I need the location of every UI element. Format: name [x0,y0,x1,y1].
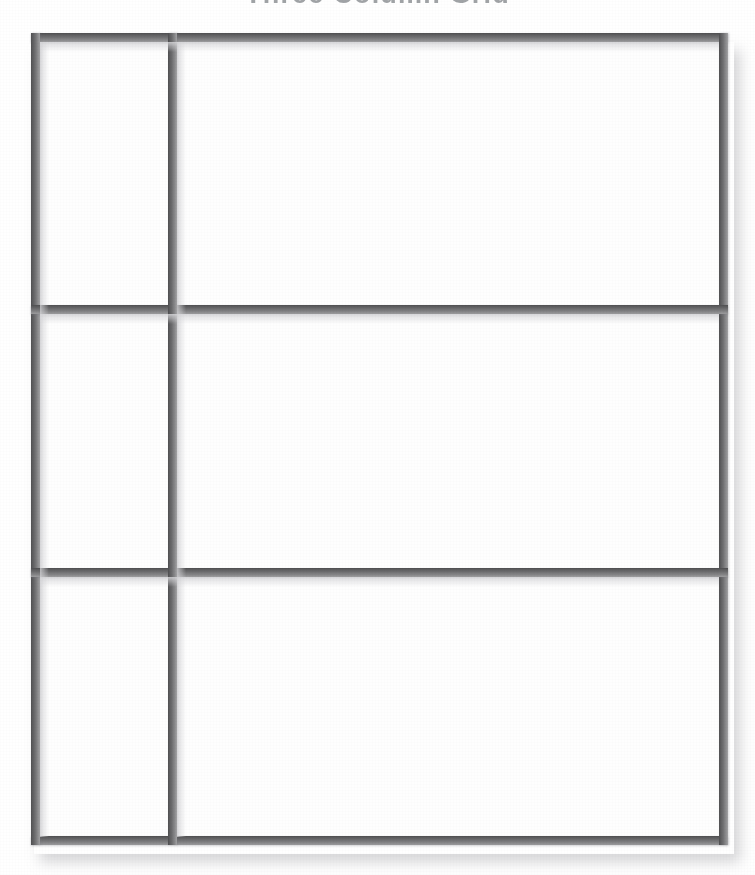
row-divider-2 [31,568,728,577]
cell-row3-col2[interactable] [176,576,720,837]
grid-frame [31,33,728,845]
frame-border-bottom [31,836,728,845]
frame-border-top [31,33,728,42]
cell-row1-col1[interactable] [39,41,168,305]
page-title-strip: Three Column Grid [0,0,755,7]
cell-row3-col1[interactable] [39,576,168,837]
page-title: Three Column Grid [0,0,755,7]
frame-border-right [719,33,728,845]
cell-row2-col1[interactable] [39,313,168,568]
column-divider-1 [168,33,177,845]
cell-row2-col2[interactable] [176,313,720,568]
frame-border-left [31,33,40,845]
cell-row1-col2[interactable] [176,41,720,305]
scanned-sheet [0,0,755,875]
row-divider-1 [31,305,728,314]
